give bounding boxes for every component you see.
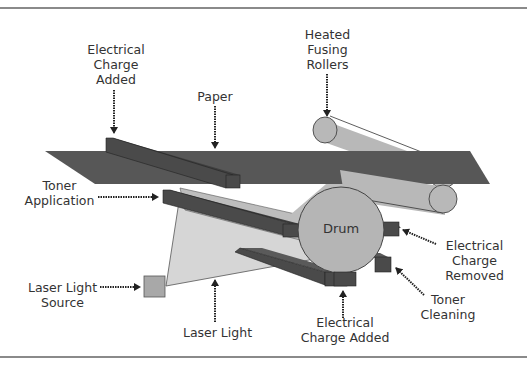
paper-sheet: [45, 151, 490, 184]
label-charge-removed: Electrical Charge Removed: [437, 238, 512, 283]
label-toner-cleaning: Toner Cleaning: [418, 292, 478, 322]
laser-source-box: [144, 276, 165, 297]
charge-added-bar-cap: [334, 272, 356, 286]
label-fusing-rollers: Heated Fusing Rollers: [295, 27, 360, 72]
label-laser-source: Laser Light Source: [25, 280, 100, 310]
arrow-charge-removed: [403, 230, 436, 244]
label-toner-application: Toner Application: [22, 178, 97, 208]
label-paper: Paper: [195, 89, 235, 104]
label-charge-added-bottom: Electrical Charge Added: [300, 315, 390, 345]
label-charge-added-top: Electrical Charge Added: [76, 42, 156, 87]
label-drum: Drum: [323, 221, 359, 236]
label-laser-light: Laser Light: [180, 325, 255, 340]
arrow-toner-cleaning: [396, 268, 424, 295]
